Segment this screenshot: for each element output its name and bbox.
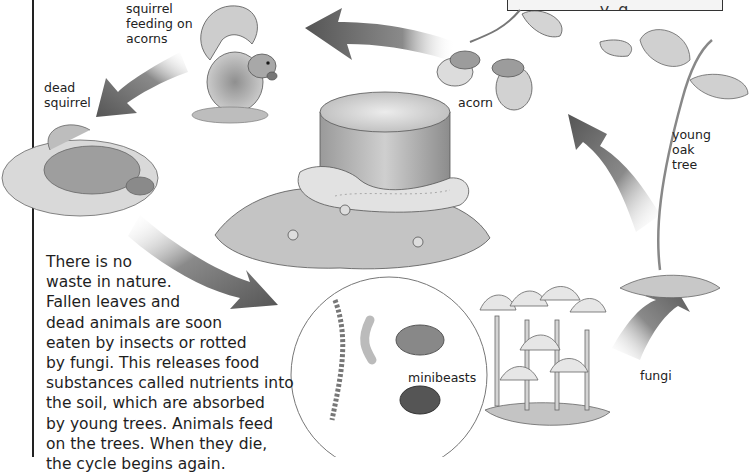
body-line: dead animals are soon — [46, 313, 296, 333]
body-line: waste in nature. — [46, 272, 296, 292]
label-minibeasts: minibeasts — [408, 370, 476, 385]
squirrel-feeding-illustration — [192, 6, 277, 123]
body-line: by fungi. This releases food — [46, 353, 296, 373]
body-line: substances called nutrients into — [46, 373, 296, 393]
body-line: on the trees. When they die, — [46, 434, 296, 454]
body-line: Fallen leaves and — [46, 292, 296, 312]
label-squirrel-feeding: squirrel feeding on acorns — [126, 1, 193, 46]
label-acorn: acorn — [458, 95, 493, 110]
body-line: There is no — [46, 252, 296, 272]
body-paragraph: There is no waste in nature. Fallen leav… — [46, 252, 296, 474]
body-line: the cycle begins again. — [46, 454, 296, 474]
dead-squirrel-illustration — [2, 125, 158, 216]
woodlouse-icon — [396, 325, 444, 355]
arrow-squirrel-to-dead-squirrel — [96, 52, 188, 117]
body-line: by young trees. Animals feed — [46, 414, 296, 434]
fungi-illustration — [480, 287, 610, 426]
label-young-oak-tree: young oak tree — [672, 127, 711, 172]
beetle-icon — [400, 386, 440, 414]
label-dead-squirrel: dead squirrel — [44, 80, 91, 110]
minibeasts-illustration — [291, 277, 487, 457]
body-line: the soil, which are absorbed — [46, 393, 296, 413]
arrow-tree-to-acorn — [568, 114, 660, 232]
body-line: eaten by insects or rotted — [46, 333, 296, 353]
arrow-acorn-to-squirrel — [305, 8, 455, 60]
label-fungi: fungi — [640, 368, 672, 383]
